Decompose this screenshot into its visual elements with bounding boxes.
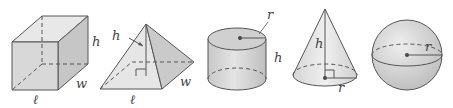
prism-length-label: ℓ [33,92,39,107]
cylinder-radius-label: r [267,7,274,22]
sphere-radius-label: r [425,39,432,54]
prism-height-label: h [92,34,100,49]
pyramid: h w ℓ [100,24,194,107]
cylinder: r h [208,7,282,90]
sphere: r [372,20,442,90]
pyramid-length-label: ℓ [130,92,136,107]
rectangular-prism: h w ℓ [12,16,100,107]
cone-radius-label: r [338,80,345,95]
cone-height-label: h [315,36,323,51]
pyramid-width-label: w [180,74,191,89]
cone: h r [293,9,357,95]
cylinder-height-label: h [274,50,282,65]
pyramid-height-label: h [112,28,120,43]
geometric-solids-diagram: h w ℓ h w ℓ r h h r [0,0,453,108]
prism-width-label: w [76,76,87,91]
